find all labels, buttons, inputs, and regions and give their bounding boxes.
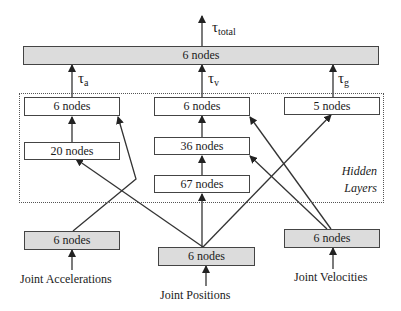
caption-joint-positions: Joint Positions	[160, 288, 230, 303]
input-accelerations-box: 6 nodes	[24, 231, 120, 250]
hidden-left-6-nodes: 6 nodes	[24, 97, 120, 116]
hidden-right-5-nodes: 5 nodes	[284, 97, 380, 115]
tau-g-label: τg	[338, 70, 349, 88]
input-velocities-box: 6 nodes	[284, 229, 380, 248]
hidden-middle-36-nodes: 36 nodes	[154, 137, 250, 155]
tau-a-label: τa	[78, 70, 88, 88]
tau-v-label: τv	[208, 70, 219, 88]
output-layer-box: 6 nodes	[23, 46, 379, 65]
caption-joint-accelerations: Joint Accelerations	[20, 272, 112, 287]
tau-total-label: τtotal	[212, 19, 236, 37]
hidden-left-20-nodes: 20 nodes	[24, 142, 120, 160]
input-positions-box: 6 nodes	[158, 247, 255, 266]
hidden-middle-6-nodes: 6 nodes	[154, 97, 250, 116]
output-layer-label: 6 nodes	[183, 48, 220, 63]
hidden-layers-title: Hidden Layers	[332, 163, 377, 197]
hidden-middle-67-nodes: 67 nodes	[154, 175, 250, 193]
caption-joint-velocities: Joint Velocities	[294, 270, 367, 285]
